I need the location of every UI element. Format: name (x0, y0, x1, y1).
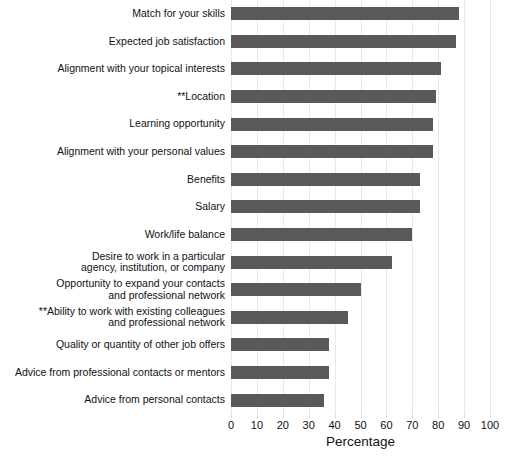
bar-row (231, 55, 490, 83)
category-label-line: Work/life balance (145, 229, 225, 241)
x-axis-title: Percentage (231, 434, 490, 449)
x-tick-label-100: 100 (481, 419, 499, 432)
category-label: Match for your skills (7, 0, 231, 28)
x-tick-label-90: 90 (458, 419, 470, 432)
category-label: **Ability to work with existing colleagu… (7, 304, 231, 332)
x-tick-label-70: 70 (406, 419, 418, 432)
category-label-line: Salary (195, 201, 225, 213)
bar (231, 35, 456, 48)
bar-row (231, 221, 490, 249)
category-label-line: Advice from professional contacts or men… (15, 367, 225, 379)
bar (231, 366, 329, 379)
bar-row (231, 0, 490, 28)
x-tick-0 (231, 414, 232, 418)
bar-chart: Match for your skillsExpected job satisf… (0, 0, 519, 464)
category-label-line: Learning opportunity (129, 118, 225, 130)
bar (231, 200, 420, 213)
category-label-line: Alignment with your personal values (57, 146, 225, 158)
x-tick-80 (438, 414, 439, 418)
bar (231, 145, 433, 158)
bar (231, 7, 459, 20)
x-tick-label-20: 20 (277, 419, 289, 432)
category-label-line: Benefits (187, 174, 225, 186)
category-label: Advice from professional contacts or men… (7, 359, 231, 387)
bar-row (231, 248, 490, 276)
x-tick-10 (257, 414, 258, 418)
bar (231, 338, 329, 351)
x-tick-label-10: 10 (251, 419, 263, 432)
x-tick-70 (412, 414, 413, 418)
bar (231, 173, 420, 186)
x-tick-label-0: 0 (228, 419, 234, 432)
category-label-line: and professional network (108, 317, 225, 329)
bar-row (231, 331, 490, 359)
bar-row (231, 193, 490, 221)
x-tick-100 (490, 414, 491, 418)
category-label: Alignment with your topical interests (7, 55, 231, 83)
x-tick-label-30: 30 (303, 419, 315, 432)
x-tick-90 (464, 414, 465, 418)
category-label: Expected job satisfaction (7, 28, 231, 56)
category-label: Learning opportunity (7, 110, 231, 138)
gridline-100 (490, 0, 491, 414)
x-axis: 0102030405060708090100 (231, 414, 490, 415)
bar (231, 311, 348, 324)
category-label-line: **Location (177, 91, 225, 103)
bar-row (231, 28, 490, 56)
category-label: Alignment with your personal values (7, 138, 231, 166)
category-label: Work/life balance (7, 221, 231, 249)
category-label-line: Expected job satisfaction (109, 36, 225, 48)
bar-row (231, 110, 490, 138)
category-label-line: agency, institution, or company (81, 262, 225, 274)
bar (231, 118, 433, 131)
category-label-line: Match for your skills (132, 8, 225, 20)
category-label: Desire to work in a particularagency, in… (7, 248, 231, 276)
bar (231, 256, 392, 269)
x-tick-label-80: 80 (432, 419, 444, 432)
category-label: Quality or quantity of other job offers (7, 331, 231, 359)
x-tick-30 (309, 414, 310, 418)
x-tick-50 (361, 414, 362, 418)
category-label: Salary (7, 193, 231, 221)
bar-row (231, 276, 490, 304)
category-label-line: Advice from personal contacts (84, 394, 225, 406)
bar (231, 90, 436, 103)
bar-row (231, 304, 490, 332)
x-tick-40 (335, 414, 336, 418)
category-label-line: Alignment with your topical interests (58, 63, 226, 75)
bar (231, 62, 441, 75)
bar-row (231, 83, 490, 111)
bar (231, 394, 324, 407)
x-tick-60 (386, 414, 387, 418)
category-label: **Location (7, 83, 231, 111)
x-tick-label-40: 40 (328, 419, 340, 432)
x-tick-20 (283, 414, 284, 418)
bar (231, 228, 412, 241)
x-tick-label-60: 60 (380, 419, 392, 432)
category-label: Advice from personal contacts (7, 386, 231, 414)
category-label-line: and professional network (108, 290, 225, 302)
plot-area (231, 0, 490, 414)
bar (231, 283, 361, 296)
category-label: Opportunity to expand your contactsand p… (7, 276, 231, 304)
bar-row (231, 138, 490, 166)
bar-row (231, 166, 490, 194)
x-tick-label-50: 50 (354, 419, 366, 432)
category-labels: Match for your skillsExpected job satisf… (0, 0, 231, 414)
bar-row (231, 386, 490, 414)
bar-row (231, 359, 490, 387)
category-label-line: Quality or quantity of other job offers (56, 339, 225, 351)
category-label: Benefits (7, 166, 231, 194)
